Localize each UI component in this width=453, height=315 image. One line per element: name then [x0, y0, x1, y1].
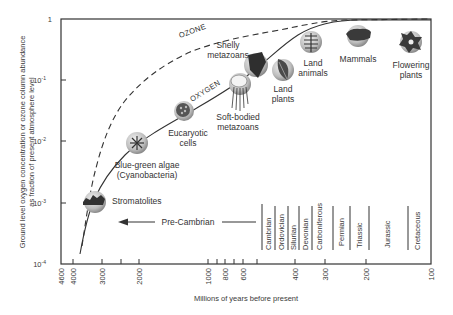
y-axis-title: Ground level oxygen concentration or ozo… — [18, 36, 36, 249]
oxygen-ozone-history-chart: 1 10-1 10-2 10-3 10-4 Ground level oxyge… — [0, 0, 453, 315]
y-tick-labels: 1 10-1 10-2 10-3 10-4 — [33, 15, 52, 269]
precambrian-arrow: Pre-Cambrian — [118, 217, 256, 227]
period-cambrian: Cambrian — [264, 217, 273, 250]
x-axis — [73, 259, 366, 264]
land-plant-icon — [272, 59, 294, 81]
label-soft-bodied: Soft-bodied — [216, 112, 260, 122]
mammal-icon — [346, 25, 371, 47]
period-triassic: Triassic — [355, 222, 364, 248]
precambrian-label: Pre-Cambrian — [162, 217, 215, 227]
svg-text:300: 300 — [321, 268, 330, 281]
label-flowering: Flowering — [393, 60, 430, 70]
svg-text:3000: 3000 — [98, 268, 107, 285]
svg-text:1000: 1000 — [204, 268, 213, 285]
label-cells: cells — [179, 138, 196, 148]
label-land-animals-1: Land — [304, 58, 323, 68]
svg-text:4600: 4600 — [57, 268, 66, 285]
eucaryotic-cell-icon — [174, 101, 194, 121]
svg-text:10-4: 10-4 — [33, 259, 46, 269]
life-labels: Stromatolites Blue-green algae (Cyanobac… — [112, 40, 430, 206]
period-jurassic: Jurassic — [383, 220, 392, 248]
land-animal-icon — [300, 31, 322, 53]
label-soft-metazoans: metazoans — [217, 122, 259, 132]
label-land-plants: plants — [272, 94, 295, 104]
label-land-animals-2: animals — [298, 68, 327, 78]
svg-text:as fraction of present atmosph: as fraction of present atmosphere level — [27, 77, 36, 207]
svg-text:600: 600 — [239, 268, 248, 281]
y-tick-1: 1 — [48, 15, 52, 24]
period-devonian: Devonian — [301, 218, 310, 250]
y-tick-10: 10 — [33, 260, 41, 269]
svg-text:800: 800 — [221, 268, 230, 281]
svg-text:400: 400 — [291, 268, 300, 281]
label-cyanobacteria: (Cyanobacteria) — [117, 170, 178, 180]
x-tick-labels: 4600 4000 3000 2000 1000 800 600 400 300… — [57, 268, 436, 285]
period-ordovician: Ordovician — [277, 214, 286, 250]
label-shelly-metazoans: metazoans — [207, 50, 249, 60]
period-permian: Permian — [337, 218, 346, 246]
svg-text:4000: 4000 — [69, 268, 78, 285]
svg-text:200: 200 — [362, 268, 371, 281]
svg-text:Ground level oxygen concentrat: Ground level oxygen concentration or ozo… — [18, 36, 27, 249]
soft-bodied-metazoan-icon — [229, 73, 251, 111]
label-stromatolites: Stromatolites — [112, 196, 162, 206]
label-eucaryotic: Eucaryotic — [168, 128, 208, 138]
label-shelly: Shelly — [216, 40, 240, 50]
label-flowering-plants: plants — [400, 70, 423, 80]
svg-text:2000: 2000 — [135, 268, 144, 285]
flowering-plant-icon — [399, 31, 422, 53]
period-cretaceous: Cretaceous — [413, 211, 422, 250]
label-blue-green-algae: Blue-green algae — [115, 160, 180, 170]
period-carboniferous: Carboniferous — [315, 203, 324, 250]
svg-text:100: 100 — [427, 268, 436, 281]
stromatolites-icon — [83, 191, 106, 213]
x-axis-title: Millions of years before present — [194, 294, 299, 303]
oxygen-label: OXYGEN — [188, 78, 222, 104]
label-mammals: Mammals — [340, 54, 377, 64]
period-silurian: Silurian — [289, 225, 298, 250]
cyanobacteria-icon — [126, 132, 148, 154]
label-land: Land — [274, 84, 293, 94]
y-axis — [61, 80, 66, 203]
ozone-label: OZONE — [178, 22, 208, 40]
